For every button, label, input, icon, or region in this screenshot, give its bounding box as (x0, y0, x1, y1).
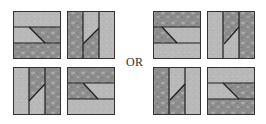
quilt-tile-1 (13, 11, 61, 59)
quilt-tile-8 (207, 67, 255, 115)
left-group (13, 11, 115, 115)
quilt-tile-5 (153, 11, 201, 59)
right-group (153, 11, 255, 115)
quilt-tile-6 (207, 11, 255, 59)
quilt-tile-4 (67, 67, 115, 115)
quilt-tile-3 (13, 67, 61, 115)
quilt-tile-7 (153, 67, 201, 115)
quilt-tile-2 (67, 11, 115, 59)
or-separator-label: OR (126, 55, 143, 70)
